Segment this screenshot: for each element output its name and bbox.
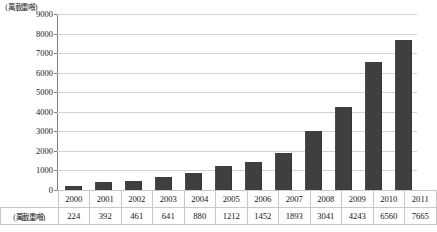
table-rowhead-values: (萬載重噸)	[1, 208, 59, 225]
table-row-years: 2000200120022003200420052006200720082009…	[1, 191, 437, 208]
table-cell-year-2002: 2002	[121, 191, 153, 208]
table-cell-year-2009: 2009	[342, 191, 374, 208]
table-cell-value-2011: 7665	[405, 208, 437, 225]
bar-2010	[365, 62, 382, 190]
table-cell-year-2011: 2011	[405, 191, 437, 208]
y-tick-label-1000: 1000	[36, 166, 53, 175]
bar-2001	[95, 182, 112, 190]
table-cell-year-2006: 2006	[247, 191, 279, 208]
y-axis-unit-label: (萬載重噸)	[2, 1, 38, 12]
table-cell-year-2001: 2001	[90, 191, 122, 208]
table-cell-value-2006: 1452	[247, 208, 279, 225]
bar-2009	[335, 107, 352, 190]
table-cell-value-2008: 3041	[310, 208, 342, 225]
table-cell-year-2010: 2010	[373, 191, 405, 208]
bar-2008	[305, 131, 322, 190]
bar-2003	[155, 177, 172, 190]
data-table-wrapper: 2000200120022003200420052006200720082009…	[0, 190, 423, 226]
y-tick-label-6000: 6000	[36, 68, 53, 77]
y-tick-label-3000: 3000	[36, 127, 53, 136]
plot-area: 0100020003000400050006000700080009000	[57, 14, 417, 190]
table-cell-value-2007: 1893	[279, 208, 311, 225]
table-rowhead-years	[1, 191, 59, 208]
bar-2006	[245, 162, 262, 190]
y-tick-label-4000: 4000	[36, 108, 53, 117]
y-axis-unit-text: (萬載重噸)	[5, 3, 38, 12]
table-cell-value-2001: 392	[90, 208, 122, 225]
table-cell-value-2003: 641	[153, 208, 185, 225]
bars-group	[57, 14, 417, 190]
bar-2007	[275, 153, 292, 190]
y-tick-label-2000: 2000	[36, 147, 53, 156]
bar-2005	[215, 166, 232, 190]
table-cell-value-2000: 224	[58, 208, 90, 225]
bar-2011	[395, 40, 412, 190]
table-cell-year-2000: 2000	[58, 191, 90, 208]
table-cell-value-2002: 461	[121, 208, 153, 225]
bar-2004	[185, 173, 202, 190]
table-cell-year-2007: 2007	[279, 191, 311, 208]
y-tick-label-8000: 8000	[36, 29, 53, 38]
bar-2002	[125, 181, 142, 190]
table-cell-year-2008: 2008	[310, 191, 342, 208]
plot-inner: 0100020003000400050006000700080009000	[57, 14, 417, 190]
table-row-values: (萬載重噸) 224392461641880121214521893304142…	[1, 208, 437, 225]
table-cell-year-2003: 2003	[153, 191, 185, 208]
table-cell-value-2005: 1212	[216, 208, 248, 225]
table-cell-year-2005: 2005	[216, 191, 248, 208]
y-tick-label-9000: 9000	[36, 10, 53, 19]
table-cell-value-2004: 880	[184, 208, 216, 225]
table-cell-value-2009: 4243	[342, 208, 374, 225]
y-tick-label-7000: 7000	[36, 49, 53, 58]
data-table: 2000200120022003200420052006200720082009…	[0, 190, 437, 225]
y-tick-label-5000: 5000	[36, 88, 53, 97]
table-cell-value-2010: 6560	[373, 208, 405, 225]
table-cell-year-2004: 2004	[184, 191, 216, 208]
